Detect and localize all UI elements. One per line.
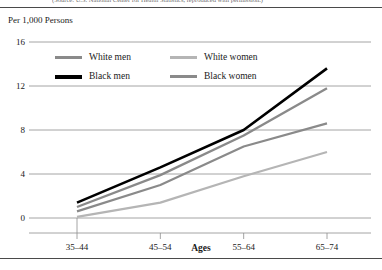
legend-item: White men [55, 52, 170, 63]
legend-row: White menWhite women [55, 48, 285, 67]
legend-label: Black men [89, 71, 130, 82]
y-tick-label: 4 [21, 169, 26, 179]
data-series-lines [77, 68, 327, 217]
series-line [77, 68, 327, 202]
x-tick-label: 35–44 [66, 242, 89, 252]
y-tick-label: 12 [16, 81, 25, 91]
legend-swatch [55, 56, 82, 59]
legend-row: Black menBlack women [55, 67, 285, 86]
x-tick-label: 55–64 [232, 242, 255, 252]
legend-label: White women [204, 52, 258, 63]
legend-swatch [170, 75, 197, 78]
legend-item: Black men [55, 71, 170, 82]
x-axis-title: Ages [191, 243, 211, 253]
chart-legend: White menWhite womenBlack menBlack women [55, 48, 285, 86]
series-line [77, 152, 327, 217]
chart-figure: (Source: U.S. National Center for Health… [0, 0, 382, 270]
y-tick-label: 16 [16, 37, 26, 47]
line-chart-plot: 0481216 35–4445–5455–6465–74 Ages [0, 0, 382, 270]
series-line [77, 123, 327, 211]
legend-item: White women [170, 52, 285, 63]
y-tick-labels: 0481216 [16, 37, 26, 223]
legend-label: White men [89, 52, 131, 63]
x-tick-label: 45–54 [149, 242, 172, 252]
legend-swatch [55, 75, 82, 79]
y-tick-label: 8 [21, 125, 26, 135]
x-axis-line [29, 218, 371, 233]
x-tick-marks [77, 233, 327, 239]
legend-label: Black women [204, 71, 257, 82]
y-tick-label: 0 [21, 213, 26, 223]
legend-swatch [170, 56, 197, 59]
x-tick-label: 65–74 [316, 242, 339, 252]
bottom-divider-rule [0, 258, 382, 259]
legend-item: Black women [170, 71, 285, 82]
